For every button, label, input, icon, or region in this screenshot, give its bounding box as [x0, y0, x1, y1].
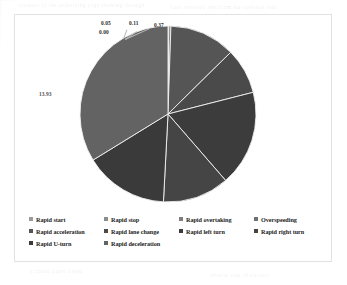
legend-item[interactable]: Rapid start: [25, 213, 100, 225]
legend-item-label: Rapid right turn: [261, 228, 304, 235]
ghost-text-line: scanned paper bleed: [30, 268, 82, 274]
legend-item[interactable]: Rapid deceleration: [100, 237, 175, 249]
legend-item-label: Rapid lane change: [111, 228, 159, 235]
legend-swatch-icon: [104, 229, 108, 233]
legend-item-label: Rapid overtaking: [186, 216, 231, 223]
legend-item[interactable]: Rapid overtaking: [175, 213, 250, 225]
legend-item[interactable]: Rapid lane change: [100, 225, 175, 237]
ghost-text-line: faint reversed text from the opposite si…: [170, 4, 277, 10]
legend-swatch-icon: [29, 241, 33, 245]
data-label-overspeeding: 0.37: [154, 22, 164, 28]
legend-item-label: Rapid start: [36, 216, 66, 223]
legend-swatch-icon: [29, 217, 33, 221]
legend-item-label: Rapid U-turn: [36, 240, 71, 247]
legend-item-label: Rapid stop: [111, 216, 139, 223]
legend-item-label: Overspeeding: [261, 216, 297, 223]
legend-item-label: Rapid left turn: [186, 228, 225, 235]
legend-item[interactable]: Rapid acceleration: [25, 225, 100, 237]
legend-item[interactable]: Rapid left turn: [175, 225, 250, 237]
pie-svg: [79, 25, 257, 203]
legend-swatch-icon: [179, 217, 183, 221]
legend-item[interactable]: Rapid right turn: [250, 225, 325, 237]
legend-swatch-icon: [254, 217, 258, 221]
data-label-rapid-overtaking: 0.11: [129, 20, 139, 26]
data-label-rapid-stop: 0.00: [99, 29, 109, 35]
ghost-text-line: reverse side characters: [210, 272, 269, 278]
legend-item-label: Rapid deceleration: [111, 240, 160, 247]
plot-area: 0.05 0.00 0.11 0.37 13.93: [15, 15, 333, 211]
legend-swatch-icon: [104, 217, 108, 221]
legend-item[interactable]: Overspeeding: [250, 213, 325, 225]
pie-graphic: [79, 25, 257, 203]
data-label-rapid-deceleration: 13.93: [39, 91, 52, 97]
legend-item[interactable]: Rapid stop: [100, 213, 175, 225]
ghost-text-line: contents of the underlying page showing …: [18, 2, 145, 8]
legend-swatch-icon: [104, 241, 108, 245]
legend-swatch-icon: [29, 229, 33, 233]
legend-swatch-icon: [179, 229, 183, 233]
data-label-rapid-start: 0.05: [101, 20, 111, 26]
legend-item-label: Rapid acceleration: [36, 228, 85, 235]
legend-item[interactable]: Rapid U-turn: [25, 237, 100, 249]
pie-slice-group: [80, 26, 256, 202]
pie-chart-container: 0.05 0.00 0.11 0.37 13.93 Rapid startRap…: [14, 14, 332, 262]
legend-swatch-icon: [254, 229, 258, 233]
chart-legend: Rapid startRapid stopRapid overtakingOve…: [25, 213, 325, 249]
